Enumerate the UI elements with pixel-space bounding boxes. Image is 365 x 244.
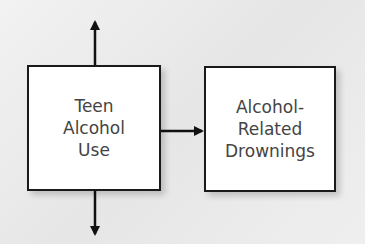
node-alcohol-related-drownings: Alcohol- Related Drownings [204, 66, 336, 192]
node-label-line: Drownings [225, 140, 315, 162]
node-teen-alcohol-use: Teen Alcohol Use [27, 65, 161, 191]
node-label-line: Alcohol- [225, 96, 315, 118]
node-label-line: Related [225, 118, 315, 140]
node-label-line: Teen [63, 95, 125, 117]
node-label-line: Alcohol [63, 117, 125, 139]
node-label-line: Use [63, 139, 125, 161]
